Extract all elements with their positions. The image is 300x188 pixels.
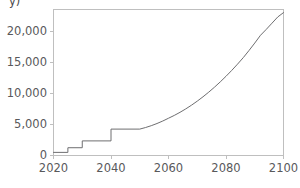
y-tick-label-10000: 10,000 <box>7 86 47 100</box>
y-tick-label-15000: 15,000 <box>7 55 47 69</box>
x-tick-label-2020: 2020 <box>39 161 68 175</box>
clipped-axis-title: y) <box>9 0 20 8</box>
y-tick-label-20000: 20,000 <box>7 24 47 38</box>
x-tickmarks <box>54 156 284 160</box>
y-tickmarks <box>50 32 54 156</box>
y-tick-label-5000: 5,000 <box>14 117 47 131</box>
y-tick-label-0: 0 <box>40 148 47 162</box>
x-tick-label-2060: 2060 <box>154 161 183 175</box>
x-tick-label-2100: 2100 <box>269 161 298 175</box>
line-chart: y) 0 5,000 10,000 15,000 20,000 <box>0 0 300 188</box>
x-tick-label-2080: 2080 <box>211 161 240 175</box>
plot-frame <box>54 10 284 156</box>
x-tick-label-2040: 2040 <box>96 161 125 175</box>
x-tick-labels: 2020 2040 2060 2080 2100 <box>39 161 298 175</box>
data-series-line <box>54 13 284 153</box>
chart-container: y) 0 5,000 10,000 15,000 20,000 <box>0 0 300 188</box>
y-tick-labels: 0 5,000 10,000 15,000 20,000 <box>7 24 47 162</box>
